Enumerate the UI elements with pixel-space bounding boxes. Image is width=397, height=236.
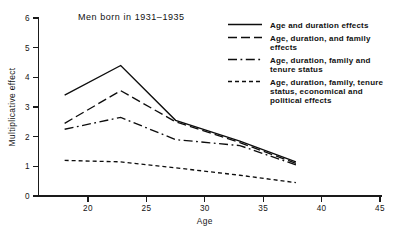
series-line-2	[65, 117, 296, 164]
x-tick-label-20: 20	[83, 204, 93, 213]
series-group	[65, 65, 296, 182]
legend-label-3-line1: Age, duration, family, tenure	[270, 78, 384, 87]
x-axis-tick-labels: 20 25 30 35 40 45	[83, 204, 385, 213]
y-tick-label-3: 3	[25, 103, 30, 112]
x-tick-label-25: 25	[141, 204, 151, 213]
legend-item-1[interactable]: Age, duration, and family effects	[228, 34, 371, 52]
chart-container: Men born in 1931–1935 0 1 2 3 4 5 6 Mult…	[0, 0, 397, 236]
y-tick-label-6: 6	[25, 14, 30, 23]
legend-label-3-line3: political effects	[270, 96, 332, 105]
y-tick-label-1: 1	[25, 162, 30, 171]
y-axis-title: Multiplicative effect	[7, 67, 17, 146]
x-axis-ticks	[88, 196, 380, 202]
y-tick-label-0: 0	[25, 192, 30, 201]
legend-label-0-line1: Age and duration effects	[270, 21, 369, 30]
y-tick-label-5: 5	[25, 44, 30, 53]
chart-legend: Age and duration effects Age, duration, …	[228, 21, 384, 105]
y-axis-tick-labels: 0 1 2 3 4 5 6	[25, 14, 30, 201]
legend-label-1-line1: Age, duration, and family	[270, 34, 371, 43]
legend-item-3[interactable]: Age, duration, family, tenure status, ec…	[228, 78, 384, 105]
legend-label-3-line2: status, economical and	[270, 87, 363, 96]
y-tick-label-4: 4	[25, 73, 30, 82]
legend-label-1-line2: effects	[270, 43, 298, 52]
x-tick-label-35: 35	[258, 204, 268, 213]
y-axis-ticks	[33, 18, 39, 196]
legend-item-2[interactable]: Age, duration, family and tenure status	[228, 56, 371, 74]
x-tick-label-30: 30	[200, 204, 210, 213]
legend-item-0[interactable]: Age and duration effects	[228, 21, 369, 30]
legend-label-2-line2: tenure status	[270, 65, 323, 74]
series-line-3	[65, 160, 296, 182]
line-chart: Men born in 1931–1935 0 1 2 3 4 5 6 Mult…	[0, 0, 397, 236]
x-tick-label-45: 45	[375, 204, 385, 213]
chart-title: Men born in 1931–1935	[78, 12, 185, 22]
legend-label-2-line1: Age, duration, family and	[270, 56, 371, 65]
x-tick-label-40: 40	[317, 204, 327, 213]
y-tick-label-2: 2	[25, 133, 30, 142]
x-axis-title: Age	[197, 216, 213, 226]
series-line-0	[65, 65, 296, 161]
